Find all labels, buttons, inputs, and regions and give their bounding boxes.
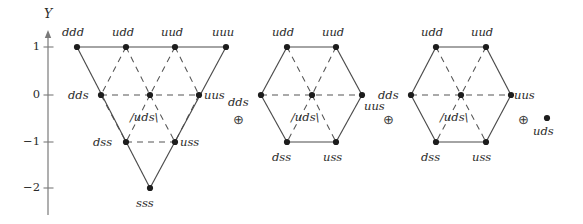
decuplet-node-udd[interactable] — [123, 44, 129, 50]
decuplet-node-uud[interactable] — [172, 44, 178, 50]
octet-1-node-label-uud: uud — [322, 27, 344, 39]
y-axis-title: Y — [44, 8, 52, 21]
decuplet-node-ddd[interactable] — [74, 44, 80, 50]
y-axis-tick-label-2: −1 — [14, 136, 40, 148]
octet-1-node-label-dds: dds — [228, 97, 249, 109]
y-axis-arrowhead — [45, 30, 51, 38]
octet-1-edge-1 — [336, 47, 362, 95]
octet-2-node-label-dss: dss — [421, 152, 440, 164]
oplus-1: ⊕ — [233, 113, 244, 126]
octet-2-node-dss[interactable] — [433, 139, 439, 145]
octet-1-node-dds[interactable] — [258, 92, 264, 98]
decuplet-node-uuu[interactable] — [223, 44, 229, 50]
octet-2-node-uud[interactable] — [483, 44, 489, 50]
decuplet-node-label-uss: uss — [180, 137, 199, 149]
decuplet-dashed-edge-5 — [175, 47, 199, 95]
decuplet-node-uss[interactable] — [172, 139, 178, 145]
decuplet-node-label-udd: udd — [112, 27, 134, 39]
octet-1-edge-5 — [261, 47, 287, 95]
octet-1-node-udd[interactable] — [284, 44, 290, 50]
octet-2-node-label-dds: dds — [378, 90, 399, 102]
y-axis-tick-label-3: −2 — [14, 182, 40, 194]
octet-1-node-uus[interactable] — [359, 92, 365, 98]
octet-1-node-uud[interactable] — [333, 44, 339, 50]
octet-1-edge-2 — [336, 95, 362, 142]
octet-2-node-label-uds: /uds\ — [440, 112, 468, 124]
octet-2-node-label-uus: uus — [514, 90, 535, 102]
decuplet-node-label-ddd: ddd — [62, 27, 84, 39]
decuplet-node-label-uud: uud — [161, 27, 183, 39]
decuplet-node-uds[interactable] — [147, 92, 153, 98]
octet-1-node-label-uus: uus — [364, 101, 385, 113]
octet-2-node-label-udd: udd — [421, 27, 443, 39]
octet-2-node-uss[interactable] — [483, 139, 489, 145]
octet-1-node-label-uds: /uds\ — [291, 112, 319, 124]
decuplet-node-label-uuu: uuu — [212, 27, 234, 39]
octet-1-dashed-edge-2 — [312, 47, 336, 95]
su3-weight-diagram-figure: 10−1−2Ydddudduuduuudds/uds\uusdssusssssu… — [0, 0, 583, 224]
octet-2-dashed-edge-1 — [436, 47, 461, 95]
decuplet-dashed-edge-3 — [126, 47, 150, 95]
decuplet-node-label-uus: uus — [204, 90, 225, 102]
octet-1-edge-4 — [261, 95, 287, 142]
decuplet-dashed-edge-4 — [150, 47, 175, 95]
singlet-node-label-uds: uds — [533, 126, 554, 138]
decuplet-node-label-dss: dss — [93, 137, 112, 149]
octet-1-node-label-udd: udd — [272, 27, 294, 39]
octet-2-node-uds[interactable] — [458, 92, 464, 98]
octet-2-edge-2 — [486, 95, 511, 142]
octet-2-node-dds[interactable] — [408, 92, 414, 98]
decuplet-node-dss[interactable] — [123, 139, 129, 145]
decuplet-node-sss[interactable] — [147, 185, 153, 191]
octet-1-node-uss[interactable] — [333, 139, 339, 145]
octet-2-edge-1 — [486, 47, 511, 95]
y-axis-tick-label-0: 1 — [14, 41, 40, 53]
octet-1-node-uds[interactable] — [309, 92, 315, 98]
octet-2-edge-4 — [411, 95, 436, 142]
oplus-3: ⊕ — [518, 113, 529, 126]
octet-1-node-label-uss: uss — [323, 152, 342, 164]
decuplet-node-uus[interactable] — [196, 92, 202, 98]
octet-2-edge-5 — [411, 47, 436, 95]
singlet-node-uds[interactable] — [544, 115, 550, 121]
decuplet-node-label-dds: dds — [68, 90, 89, 102]
octet-2-node-label-uud: uud — [471, 27, 493, 39]
octet-1-node-dss[interactable] — [284, 139, 290, 145]
octet-2-dashed-edge-2 — [461, 47, 486, 95]
decuplet-node-dds[interactable] — [98, 92, 104, 98]
decuplet-node-label-sss: sss — [136, 198, 154, 210]
octet-1-dashed-edge-1 — [287, 47, 312, 95]
octet-1-node-label-dss: dss — [272, 152, 291, 164]
y-axis-tick-label-1: 0 — [14, 89, 40, 101]
octet-2-node-udd[interactable] — [433, 44, 439, 50]
decuplet-dashed-edge-2 — [101, 47, 126, 95]
oplus-2: ⊕ — [383, 113, 394, 126]
octet-2-node-label-uss: uss — [472, 152, 491, 164]
decuplet-node-label-uds: /uds\ — [130, 112, 158, 124]
